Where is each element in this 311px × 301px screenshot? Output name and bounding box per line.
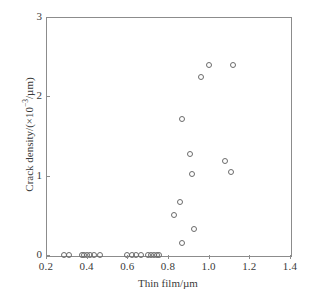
x-axis-tick <box>168 255 169 259</box>
y-axis-tick-label: 1 <box>24 170 42 181</box>
y-axis-tick <box>46 96 50 97</box>
y-axis-tick <box>46 176 50 177</box>
x-axis-tick <box>290 255 291 259</box>
y-axis-label: Crack density/(×10−3/µm) <box>23 40 36 230</box>
x-axis-label: Thin film/µm <box>46 277 290 290</box>
x-axis-tick <box>87 255 88 259</box>
y-axis-tick-label: 3 <box>24 11 42 22</box>
y-axis-tick <box>46 17 50 18</box>
y-axis-tick-label: 2 <box>24 90 42 101</box>
x-axis-tick <box>127 255 128 259</box>
scatter-chart-figure: Thin film/µm Crack density/(×10−3/µm) 0.… <box>0 0 311 301</box>
x-axis-tick-label: 0.8 <box>148 260 188 273</box>
x-axis-tick-label: 0.6 <box>107 260 147 273</box>
y-axis-tick <box>46 255 50 256</box>
x-axis-tick-label: 1.4 <box>270 260 310 273</box>
x-axis-tick <box>209 255 210 259</box>
y-axis-tick-label: 0 <box>24 249 42 260</box>
plot-frame <box>46 17 292 257</box>
x-axis-tick <box>249 255 250 259</box>
x-axis-tick-label: 0.2 <box>26 260 66 273</box>
x-axis-tick-label: 0.4 <box>67 260 107 273</box>
x-axis-tick-label: 1.2 <box>229 260 269 273</box>
figure-caption <box>6 291 306 299</box>
x-axis-tick-label: 1.0 <box>189 260 229 273</box>
